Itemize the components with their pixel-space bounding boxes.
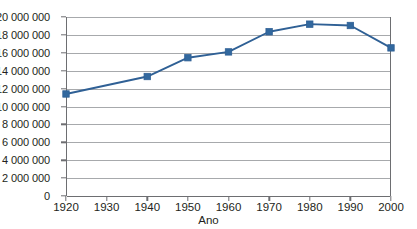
y-tick-mark <box>61 52 66 53</box>
data-point-marker <box>225 49 231 55</box>
series-markers <box>63 21 394 97</box>
data-point-marker <box>185 55 191 61</box>
y-tick-mark <box>61 16 66 17</box>
x-tick-label: 1970 <box>256 201 282 213</box>
x-tick-label: 1990 <box>338 201 364 213</box>
y-tick-mark <box>61 34 66 35</box>
x-tick-label: 1950 <box>175 201 201 213</box>
data-point-marker <box>307 21 313 27</box>
data-point-marker <box>266 29 272 35</box>
x-axis-title: Ano <box>0 214 417 226</box>
y-tick-mark <box>61 70 66 71</box>
data-point-marker <box>347 22 353 28</box>
y-tick-mark <box>61 106 66 107</box>
data-point-marker <box>144 73 150 79</box>
x-tick-label: 1930 <box>94 201 120 213</box>
x-tick-label: 1960 <box>216 201 242 213</box>
y-tick-mark <box>61 88 66 89</box>
line-chart: 02 000 0004 000 0006 000 0008 000 00010 … <box>0 0 417 229</box>
y-tick-mark <box>61 159 66 160</box>
y-tick-mark <box>61 177 66 178</box>
series-line <box>66 24 391 94</box>
x-tick-label: 1940 <box>134 201 160 213</box>
x-tick-label: 2000 <box>378 201 404 213</box>
x-tick-label: 1920 <box>53 201 79 213</box>
y-tick-mark <box>61 124 66 125</box>
data-point-marker <box>388 45 394 51</box>
y-tick-mark <box>61 142 66 143</box>
data-point-marker <box>63 91 69 97</box>
x-tick-label: 1980 <box>297 201 323 213</box>
